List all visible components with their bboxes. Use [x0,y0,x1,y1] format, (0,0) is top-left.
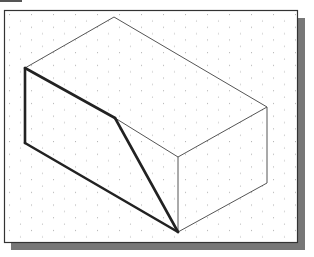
frame-shadow-right [298,18,305,250]
frame-shadow-bottom [11,243,305,250]
drawing-viewport [0,0,314,257]
grid-dots [6,12,296,241]
